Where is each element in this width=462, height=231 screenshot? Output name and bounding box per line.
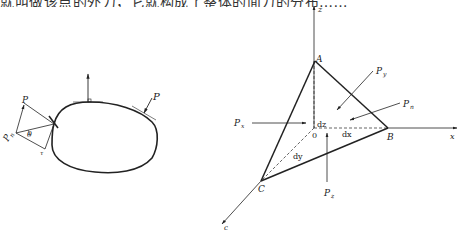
p-label-right: P	[152, 91, 160, 102]
resultant-line	[16, 124, 54, 133]
origin-label: 0	[312, 131, 317, 140]
pz-label-sub: z	[330, 192, 335, 199]
dx-label: dx	[342, 130, 352, 139]
px-label-main: P	[233, 118, 241, 128]
vertex-c-label: C	[258, 184, 265, 194]
tau-label: τ	[40, 149, 44, 156]
theta-label: θ	[27, 130, 32, 139]
edge-ac	[261, 61, 315, 181]
z-axis-label: z	[317, 5, 323, 14]
pn-arrow	[350, 103, 400, 120]
pn-component	[16, 105, 24, 133]
py-label-sub: y	[382, 70, 387, 78]
dz-label: dz	[317, 120, 326, 129]
edge-oc-dashed	[261, 128, 314, 181]
dy-label: dy	[293, 152, 303, 161]
left-figure-surface-force: P P P n θ τ	[1, 74, 160, 173]
pz-label-main: P	[323, 188, 331, 198]
pn-label-sub-right: n	[410, 103, 414, 110]
x-axis-label: x	[450, 132, 455, 141]
px-label-sub: x	[241, 122, 245, 129]
py-label-main: P	[375, 66, 383, 76]
p-arrow-right	[144, 98, 152, 113]
y-axis-label: c	[224, 224, 228, 231]
pn-label-main-right: P	[402, 99, 410, 109]
edge-bc	[261, 128, 388, 181]
y-axis	[222, 181, 261, 224]
diagram-canvas: P P P n θ τ z x c A B C	[0, 0, 462, 231]
right-figure-tetrahedron: z x c A B C 0 dz dx dy P x P y P n P z	[222, 5, 457, 231]
p-label-left: P	[21, 95, 29, 105]
vertex-a-label: A	[315, 54, 323, 64]
vertex-b-label: B	[386, 132, 394, 142]
py-arrow	[337, 71, 373, 110]
body-outline	[52, 102, 157, 173]
